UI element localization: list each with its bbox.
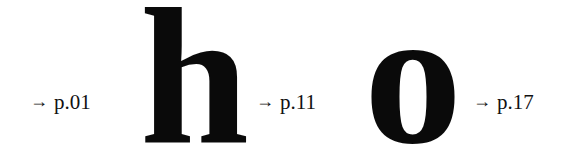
- page-number: p.17: [497, 90, 534, 114]
- arrow-right-icon: →: [473, 91, 491, 111]
- letter-glyph-o: o: [364, 0, 462, 167]
- arrow-right-icon: →: [256, 91, 274, 111]
- page-reference-1: →p.01: [30, 92, 91, 113]
- page-reference-2: →p.11: [256, 92, 316, 113]
- page-reference-3: →p.17: [473, 92, 534, 113]
- page-number: p.11: [280, 90, 316, 114]
- page-number: p.01: [54, 90, 91, 114]
- arrow-right-icon: →: [30, 91, 48, 111]
- letter-glyph-h: h: [140, 0, 249, 167]
